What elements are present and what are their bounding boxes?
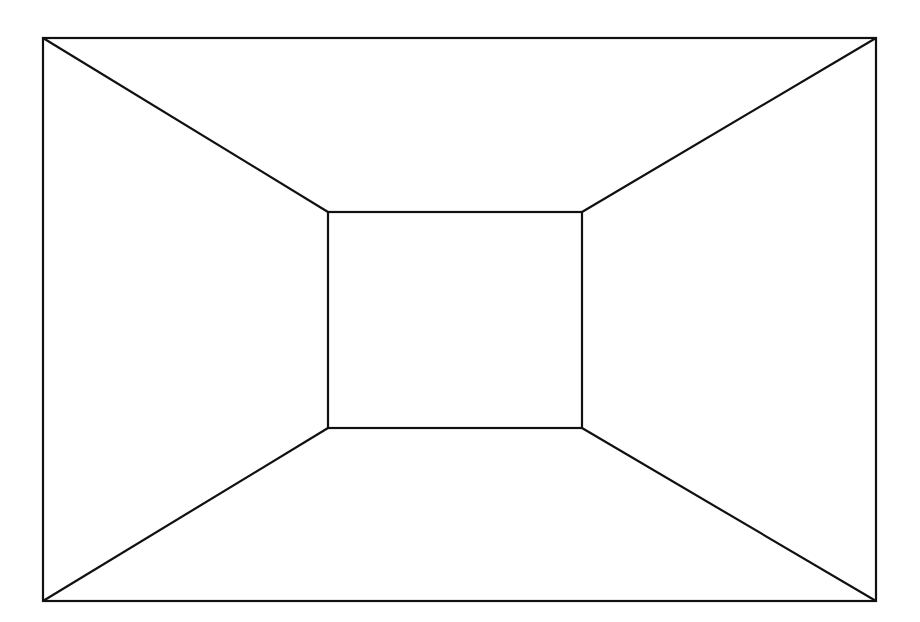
top-right-edge [582,38,876,212]
top-left-edge [43,38,328,212]
bottom-left-edge [43,428,328,601]
bottom-right-edge [582,428,876,601]
perspective-room-diagram [0,0,920,622]
outer-frame [43,38,876,601]
back-wall [328,212,582,428]
